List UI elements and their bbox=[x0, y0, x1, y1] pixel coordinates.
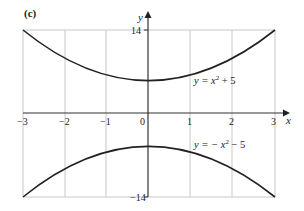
chart: (c) y x 14 −14 −3 −2 −1 0 1 2 3 y = x2 +… bbox=[0, 0, 304, 211]
curve-upper bbox=[23, 30, 275, 81]
x-axis-label: x bbox=[285, 114, 291, 126]
svg-text:1: 1 bbox=[187, 116, 192, 127]
y-tick-bottom: −14 bbox=[130, 192, 146, 203]
x-tick-labels: −3 −2 −1 0 1 2 3 bbox=[17, 116, 276, 127]
svg-text:3: 3 bbox=[271, 116, 276, 127]
svg-text:−1: −1 bbox=[100, 116, 111, 127]
panel-label: (c) bbox=[24, 7, 37, 20]
svg-text:2: 2 bbox=[229, 116, 234, 127]
y-tick-top: 14 bbox=[131, 25, 141, 36]
curve-lower bbox=[23, 146, 275, 197]
y-axis-arrow-icon bbox=[145, 11, 152, 18]
curve-lower-label: y = − x2 − 5 bbox=[193, 138, 245, 150]
svg-text:0: 0 bbox=[140, 116, 145, 127]
curve-upper-label: y = x2 + 5 bbox=[193, 74, 236, 86]
svg-text:−2: −2 bbox=[59, 116, 70, 127]
svg-text:−3: −3 bbox=[17, 116, 28, 127]
y-axis-label: y bbox=[137, 11, 143, 23]
